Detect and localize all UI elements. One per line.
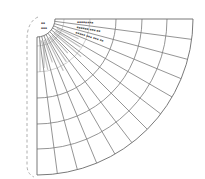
radial-ray bbox=[50, 32, 148, 130]
dashed-dimension-line bbox=[27, 17, 38, 177]
ray-label: ▪▪▪▪▪▪▪▪ bbox=[77, 20, 93, 25]
hub-label: ▪▪▪ bbox=[41, 26, 47, 30]
polar-fan-diagram: ▪▪▪▪▪▪▪▪▪▪▪▪▪▪ ▪▪▪ ▪▪▪▪▪▪▪ ▪▪▪ ▪▪▪ ▪▪▪▪▪… bbox=[0, 0, 205, 179]
radial-ray bbox=[39, 37, 57, 174]
hub-label: ▪▪ bbox=[41, 21, 45, 25]
radial-rays bbox=[39, 21, 191, 173]
